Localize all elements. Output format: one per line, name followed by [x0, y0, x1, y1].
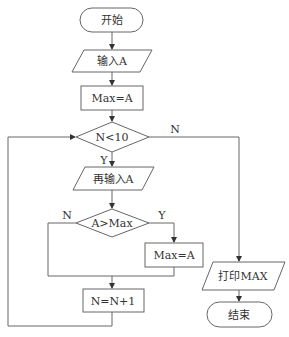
reinput-label: 再输入A [93, 174, 134, 185]
edge-loop-no [149, 137, 239, 261]
start-label: 开始 [101, 15, 123, 26]
flowchart-canvas [0, 0, 289, 337]
print-label: 打印MAX [218, 271, 267, 282]
input-label: 输入A [97, 56, 127, 67]
assign-max-label: Max=A [153, 250, 194, 261]
loop-condition-label: N<10 [96, 132, 129, 143]
loop-yes-label: Y [100, 155, 107, 166]
increment-label: N=N+1 [91, 296, 136, 307]
init-max-label: Max=A [91, 93, 132, 104]
edge-max-yes [149, 223, 174, 242]
loop-no-label: N [170, 124, 180, 135]
edge-assign-merge [112, 267, 174, 276]
max-no-label: N [62, 210, 72, 221]
max-yes-label: Y [158, 210, 165, 221]
end-label: 结束 [228, 310, 250, 321]
max-condition-label: A>Max [91, 218, 132, 229]
